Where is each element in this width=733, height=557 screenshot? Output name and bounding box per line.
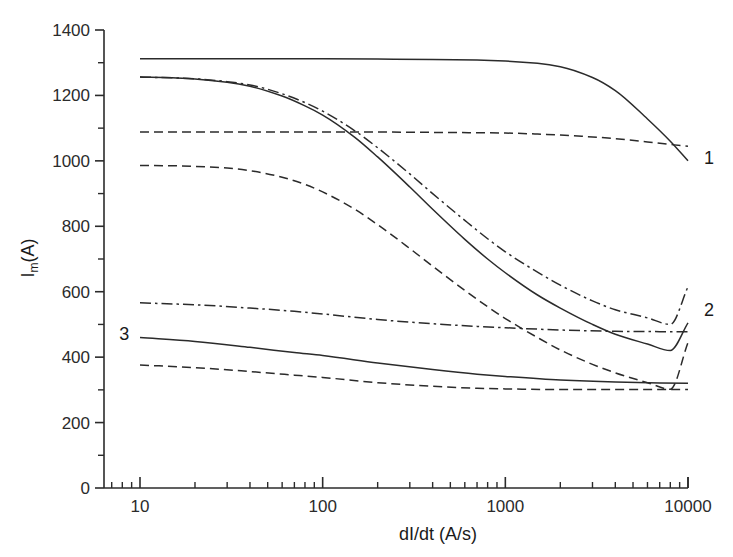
figure-container: 020040060080010001200140010100100010000d… — [0, 0, 733, 557]
curve-group-label-1: 1 — [704, 148, 714, 168]
x-axis-tick-label: 1000 — [486, 497, 524, 516]
y-axis-tick-label: 1200 — [52, 86, 90, 105]
y-axis-tick-label: 600 — [62, 283, 90, 302]
curve-group1-solid — [140, 59, 688, 161]
curve-group3-dashdot — [140, 303, 688, 332]
data-curves — [140, 59, 688, 390]
x-axis-tick-label: 100 — [308, 497, 336, 516]
axes — [95, 30, 688, 488]
chart-text-labels: 020040060080010001200140010100100010000d… — [18, 21, 714, 544]
curve-group2-solid — [140, 77, 688, 350]
curve-group2-dashed — [140, 165, 688, 389]
curve-group-label-3: 3 — [119, 324, 129, 344]
y-axis-title: Im(A) — [18, 238, 41, 277]
x-axis-title: dI/dt (A/s) — [399, 524, 477, 544]
svg-text:Im(A): Im(A) — [18, 238, 41, 277]
y-axis-tick-label: 200 — [62, 414, 90, 433]
curve-group1-dashed — [140, 132, 688, 146]
chart-canvas: 020040060080010001200140010100100010000d… — [0, 0, 733, 557]
y-axis-tick-label: 1400 — [52, 21, 90, 40]
curve-group2-dashdot — [140, 77, 688, 324]
curve-group3-dashed — [140, 365, 688, 390]
x-axis-tick-label: 10000 — [664, 497, 711, 516]
y-axis-tick-label: 400 — [62, 348, 90, 367]
y-axis-tick-label: 0 — [81, 479, 90, 498]
curve-group3-solid — [140, 338, 688, 384]
y-axis-tick-label: 1000 — [52, 152, 90, 171]
y-axis-tick-label: 800 — [62, 217, 90, 236]
curve-group-label-2: 2 — [704, 300, 714, 320]
x-axis-tick-label: 10 — [131, 497, 150, 516]
